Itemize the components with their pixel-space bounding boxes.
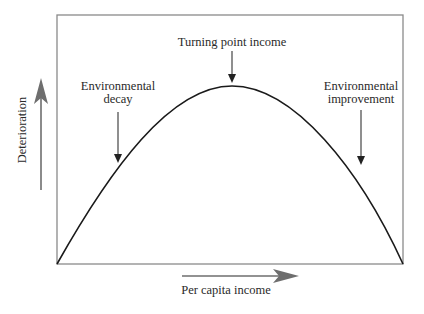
kuznets-curve xyxy=(57,86,403,264)
y-axis-arrow-icon xyxy=(34,78,48,190)
improvement-arrow-icon xyxy=(357,110,365,165)
plot-frame xyxy=(57,15,403,264)
improvement-label-line2: improvement xyxy=(311,93,411,106)
turning-point-arrow-icon xyxy=(228,51,236,83)
y-axis-label: Deterioration xyxy=(15,97,30,164)
decay-label: Environmental decay xyxy=(68,80,168,106)
decay-label-line2: decay xyxy=(68,93,168,106)
x-axis-label: Per capita income xyxy=(176,284,276,297)
improvement-label: Environmental improvement xyxy=(311,80,411,106)
ekc-diagram: Turning point income Environmental decay… xyxy=(0,0,424,314)
x-axis-arrow-icon xyxy=(182,269,299,283)
turning-point-label: Turning point income xyxy=(172,36,292,49)
decay-arrow-icon xyxy=(114,112,122,163)
